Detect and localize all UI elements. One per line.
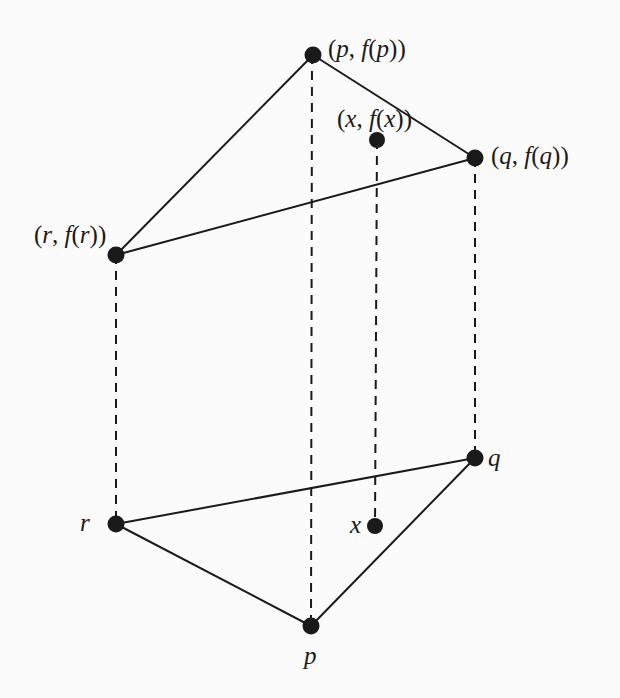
- label-x: x: [350, 512, 361, 537]
- label-p-fp: (p, f(p)): [328, 36, 406, 61]
- point-x-fx: [369, 132, 385, 148]
- label-r-fr: (r, f(r)): [34, 222, 106, 247]
- point-p-fp: [305, 47, 322, 64]
- edge-upper-q-r: [116, 158, 475, 255]
- label-p: p: [304, 643, 317, 668]
- point-q-fq: [467, 150, 484, 167]
- label-r: r: [80, 510, 90, 535]
- point-p: [303, 618, 320, 635]
- edge-lower-p-r: [116, 524, 311, 626]
- point-r: [108, 516, 125, 533]
- point-r-fr: [108, 247, 125, 264]
- label-x-fx: (x, f(x)): [337, 106, 412, 131]
- diagram-canvas: [0, 0, 620, 698]
- point-q: [467, 450, 484, 467]
- edge-upper-r-p: [116, 55, 313, 255]
- label-q-fq: (q, f(q)): [491, 143, 569, 168]
- dashed-projection-x: [375, 140, 377, 526]
- label-q: q: [488, 445, 501, 470]
- dashed-projection-p: [311, 55, 312, 626]
- point-x: [367, 518, 383, 534]
